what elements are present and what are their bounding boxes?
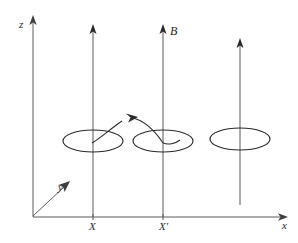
- helix-segment-inner-hook: [163, 140, 180, 144]
- point-x-prime-label: X': [159, 221, 168, 232]
- y-axis: [33, 181, 70, 216]
- field-line-2: [160, 24, 167, 217]
- figure-canvas: [0, 0, 298, 243]
- magnetic-field-label: B: [170, 25, 177, 37]
- x-axis-label: x: [282, 220, 287, 231]
- magnetic-field-lines: [90, 24, 244, 217]
- z-axis: [29, 15, 36, 217]
- point-x-label: X: [89, 221, 96, 232]
- gyration-loops: [63, 128, 270, 152]
- helix-segment-ascending: [92, 121, 122, 143]
- field-line-1: [90, 24, 97, 217]
- y-axis-label: y: [58, 182, 63, 193]
- coordinate-axes: [29, 15, 288, 221]
- helix-arrowhead: [126, 114, 138, 123]
- field-line-3: [237, 38, 244, 205]
- z-axis-label: z: [19, 19, 23, 30]
- helix-transition-arrow: [92, 114, 180, 145]
- physics-figure: z y x B X X': [0, 0, 298, 243]
